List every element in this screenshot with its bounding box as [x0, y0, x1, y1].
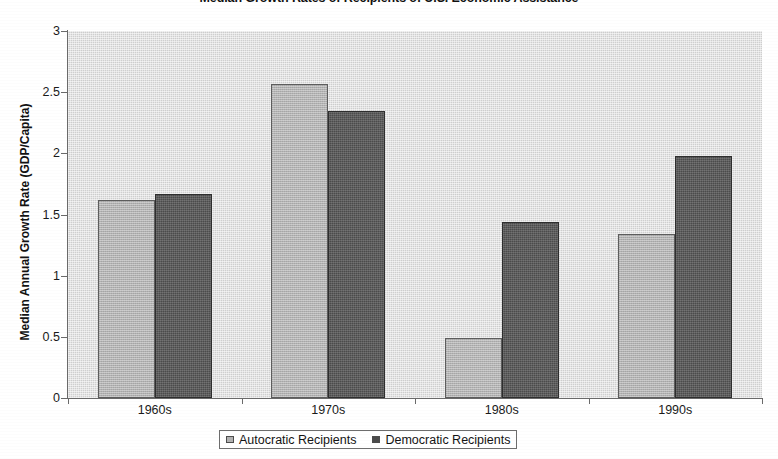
- y-axis-tick: [61, 153, 68, 154]
- legend-swatch-icon-autocratic: [226, 436, 234, 443]
- bar-1990s-democratic: [675, 156, 732, 398]
- x-axis-label-1980s: 1980s: [485, 403, 519, 417]
- bar-1990s-autocratic: [618, 234, 675, 398]
- bar-1960s-autocratic: [98, 200, 155, 398]
- bar-1970s-democratic: [328, 111, 385, 398]
- y-axis-tick: [61, 31, 68, 32]
- legend-item-autocratic: Autocratic Recipients: [226, 433, 356, 447]
- y-axis-tick-label: 2.5: [43, 85, 60, 99]
- bar-1970s-autocratic: [271, 84, 328, 398]
- x-axis-tick: [68, 398, 69, 404]
- legend-label-democratic: Democratic Recipients: [385, 433, 510, 447]
- y-axis-tick: [61, 337, 68, 338]
- y-axis-tick: [61, 215, 68, 216]
- x-axis-label-1960s: 1960s: [138, 403, 172, 417]
- y-axis-tick-label: 0.5: [43, 330, 60, 344]
- y-axis-tick-label: 0: [53, 391, 60, 405]
- chart-title: Median Growth Rates of Recipients of U.S…: [0, 0, 778, 5]
- y-axis-tick-label: 1.5: [43, 208, 60, 222]
- bar-1960s-democratic: [155, 194, 212, 398]
- bars-layer: [68, 31, 762, 398]
- y-axis-tick-label: 2: [53, 146, 60, 160]
- x-axis-tick: [589, 398, 590, 404]
- chart-canvas: Median Growth Rates of Recipients of U.S…: [0, 0, 778, 459]
- legend-label-autocratic: Autocratic Recipients: [239, 433, 356, 447]
- y-axis-tick: [61, 398, 68, 399]
- y-axis-tick: [61, 276, 68, 277]
- x-axis-tick: [242, 398, 243, 404]
- chart-legend: Autocratic Recipients Democratic Recipie…: [219, 430, 517, 449]
- legend-swatch-icon-democratic: [372, 436, 380, 443]
- bar-1980s-democratic: [502, 222, 559, 398]
- legend-item-democratic: Democratic Recipients: [372, 433, 510, 447]
- y-axis-title: Median Annual Growth Rate (GDP/Capita): [18, 57, 32, 387]
- x-axis-label-1990s: 1990s: [658, 403, 692, 417]
- x-axis-label-1970s: 1970s: [311, 403, 345, 417]
- bar-1980s-autocratic: [445, 338, 502, 398]
- y-axis-tick: [61, 92, 68, 93]
- x-axis-tick: [762, 398, 763, 404]
- y-axis-tick-label: 1: [53, 269, 60, 283]
- x-axis-tick: [415, 398, 416, 404]
- y-axis-tick-label: 3: [53, 24, 60, 38]
